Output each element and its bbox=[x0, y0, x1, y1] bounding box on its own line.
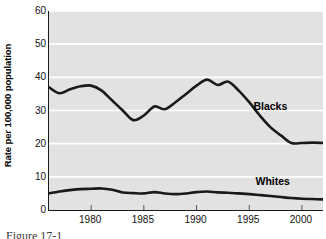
figure-caption: Figure 17-1 bbox=[6, 229, 206, 239]
y-tick-label: 0 bbox=[20, 205, 46, 215]
y-tick-label: 10 bbox=[20, 172, 46, 182]
x-tick-label: 1980 bbox=[79, 214, 101, 225]
figure-container: Rate per 100,000 population 010203040506… bbox=[0, 0, 326, 239]
y-tick-label: 30 bbox=[20, 106, 46, 116]
y-tick-label: 40 bbox=[20, 72, 46, 82]
series-line-blacks bbox=[49, 80, 323, 144]
y-tick-label: 20 bbox=[20, 139, 46, 149]
y-tick-label: 50 bbox=[20, 39, 46, 49]
y-axis-title: Rate per 100,000 population bbox=[0, 0, 16, 210]
x-tick-label: 1985 bbox=[132, 214, 154, 225]
series-label-whites: Whites bbox=[256, 175, 290, 187]
x-tick-label: 2000 bbox=[290, 214, 312, 225]
plot-area: BlacksWhites bbox=[48, 11, 323, 211]
y-tick-label: 60 bbox=[20, 6, 46, 16]
series-line-whites bbox=[49, 188, 323, 199]
x-tick-label: 1995 bbox=[237, 214, 259, 225]
x-tick-label: 1990 bbox=[184, 214, 206, 225]
x-axis-ticks: 19801985199019952000 bbox=[48, 214, 326, 230]
series-label-blacks: Blacks bbox=[253, 100, 287, 112]
y-axis-title-text: Rate per 100,000 population bbox=[3, 43, 14, 166]
y-axis-ticks: 0102030405060 bbox=[16, 0, 46, 239]
